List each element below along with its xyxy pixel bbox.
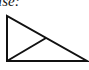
triangle-diagram <box>0 0 89 70</box>
inner-segment <box>7 38 46 61</box>
